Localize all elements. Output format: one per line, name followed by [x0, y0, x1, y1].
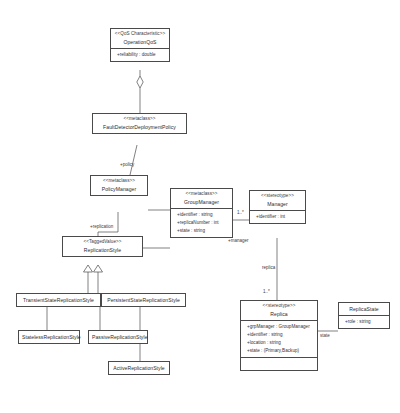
class-box-policy-manager[interactable]: <<metaclass>> PolicyManager: [90, 175, 148, 196]
class-box-replica-state[interactable]: ReplicaState +role : string: [338, 302, 390, 329]
attribute-row: +state : string: [174, 227, 229, 235]
compartment-header: PersistentStateReplicationStyle: [102, 294, 185, 306]
compartment-header: <<TaggedValue>> ReplicationStyle: [63, 237, 142, 256]
class-box-operation-qos[interactable]: <<QoS Characteristic>> OperationQoS +rel…: [110, 28, 170, 62]
class-box-persistent-state-replication-style[interactable]: PersistentStateReplicationStyle: [101, 293, 186, 307]
class-box-fault-detector-deployment-policy[interactable]: <<metaclass>> FaultDetectorDeploymentPol…: [92, 113, 187, 134]
edge-label-replica-multiplicity: 1..*: [263, 289, 270, 294]
class-box-passive-replication-style[interactable]: PassiveReplicationStyle: [88, 330, 148, 344]
compartment-attributes: +identifier : string +replicaNumber : in…: [171, 208, 232, 237]
line-fdp-to-policymanager: [130, 145, 137, 175]
class-name-label: ReplicationStyle: [66, 246, 139, 254]
edge-label-replication: +replication: [90, 224, 113, 229]
class-name-label: Replica: [244, 310, 314, 318]
compartment-header: ReplicaState: [339, 303, 389, 315]
compartment-header: StatelessReplicationStyle: [19, 331, 79, 343]
class-box-replication-style[interactable]: <<TaggedValue>> ReplicationStyle: [62, 236, 143, 257]
generalization-arrow-transient: [84, 265, 93, 272]
class-box-manager[interactable]: <<stereotype>> Manager +identifier : int: [249, 190, 306, 224]
compartment-header: <<stereotype>> Replica: [241, 301, 317, 320]
compartment-header: <<metaclass>> FaultDetectorDeploymentPol…: [93, 114, 186, 133]
edge-label-gm-manager-multiplicity: 1..*: [237, 210, 244, 215]
compartment-header: <<QoS Characteristic>> OperationQoS: [111, 29, 169, 48]
class-name-label: PassiveReplicationStyle: [92, 333, 144, 341]
compartment-attributes: +reliability : double: [111, 48, 169, 61]
edge-label-manager-role: +manager: [228, 238, 249, 243]
class-name-label: PersistentStateReplicationStyle: [105, 296, 182, 304]
stereotype-label: <<QoS Characteristic>>: [114, 31, 166, 38]
class-name-label: StatelessReplicationStyle: [22, 333, 76, 341]
stereotype-label: <<metaclass>>: [96, 116, 183, 123]
stereotype-label: <<TaggedValue>>: [66, 239, 139, 246]
class-name-label: ReplicaState: [342, 305, 386, 313]
edge-label-policy: +policy: [120, 162, 134, 167]
attribute-row: +role : string: [342, 318, 386, 326]
compartment-header: ActiveReplicationStyle: [109, 362, 169, 374]
attribute-row: +location : string: [244, 339, 314, 347]
class-name-label: ActiveReplicationStyle: [112, 364, 166, 372]
attribute-row: +reliability : double: [114, 51, 166, 59]
attribute-row: +identifier : string: [174, 211, 229, 219]
stereotype-label: <<metaclass>>: [94, 178, 144, 185]
compartment-header: <<metaclass>> PolicyManager: [91, 176, 147, 195]
generalization-arrow-persistent: [94, 265, 103, 272]
class-name-label: Manager: [253, 200, 302, 208]
class-box-replica[interactable]: <<stereotype>> Replica +grpManager : Gro…: [240, 300, 318, 371]
compartment-attributes: +role : string: [339, 315, 389, 328]
uml-diagram-canvas: <<QoS Characteristic>> OperationQoS +rel…: [0, 0, 400, 413]
stereotype-label: <<stereotype>>: [253, 193, 302, 200]
compartment-operations: [241, 357, 317, 370]
class-box-active-replication-style[interactable]: ActiveReplicationStyle: [108, 361, 170, 375]
class-name-label: PolicyManager: [94, 185, 144, 193]
class-name-label: GroupManager: [174, 198, 229, 206]
attribute-row: +replicaNumber : int: [174, 219, 229, 227]
class-name-label: OperationQoS: [114, 38, 166, 46]
compartment-header: <<stereotype>> Manager: [250, 191, 305, 210]
edge-label-state-role: state: [320, 333, 330, 338]
class-box-transient-state-replication-style[interactable]: TransientStateReplicationStyle: [16, 293, 101, 307]
compartment-attributes: +identifier : int: [250, 210, 305, 223]
attribute-row: +identifier : int: [253, 213, 302, 221]
stereotype-label: <<metaclass>>: [174, 191, 229, 198]
class-name-label: TransientStateReplicationStyle: [20, 296, 97, 304]
attribute-row: +state : (Primary,Backup): [244, 347, 314, 355]
attribute-row: +grpManager : GroupManager: [244, 323, 314, 331]
attribute-row: +identifier : string: [244, 331, 314, 339]
compartment-header: PassiveReplicationStyle: [89, 331, 147, 343]
aggregation-diamond-qos: [137, 76, 143, 88]
class-box-group-manager[interactable]: <<metaclass>> GroupManager +identifier :…: [170, 188, 233, 238]
stereotype-label: <<stereotype>>: [244, 303, 314, 310]
compartment-header: <<metaclass>> GroupManager: [171, 189, 232, 208]
compartment-attributes: +grpManager : GroupManager +identifier :…: [241, 320, 317, 357]
edge-label-replica-role: replica: [262, 265, 275, 270]
compartment-header: TransientStateReplicationStyle: [17, 294, 100, 306]
class-name-label: FaultDetectorDeploymentPolicy: [96, 123, 183, 131]
class-box-stateless-replication-style[interactable]: StatelessReplicationStyle: [18, 330, 80, 344]
